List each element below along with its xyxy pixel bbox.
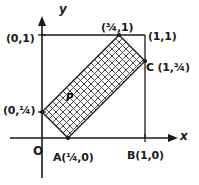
shaded-region-polygon [42,35,145,138]
point-label-a: A(¼,0) [53,152,94,163]
point-label-0-1: (0,1) [6,33,35,44]
x-axis-arrowhead [168,134,178,142]
x-axis-label: x [180,130,188,142]
point-label-0-quarter: (0,¼) [3,105,35,116]
region-label-p: P [66,93,73,103]
geometry-figure: y x O (0,1) (0,¼) (¾,1) (1,1) C (1,¾) A(… [0,0,199,185]
point-label-three-quarter-1: (¾,1) [101,22,133,33]
point-label-b: B(1,0) [127,150,164,161]
origin-label: O [33,145,43,157]
point-label-1-1: (1,1) [148,31,177,42]
diagram-canvas [0,0,199,185]
vertex-dot-a [66,136,70,140]
y-axis-label: y [59,3,67,15]
y-axis-arrowhead [38,16,46,26]
vertex-dot-left-quarter [40,110,44,114]
point-label-c: C (1,¾) [146,62,190,73]
